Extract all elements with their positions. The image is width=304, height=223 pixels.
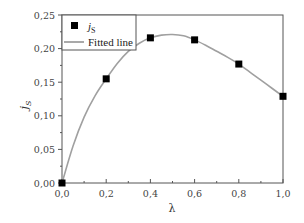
y-tick-label: 0,15 [34, 77, 55, 88]
legend: jS Fitted line [62, 15, 136, 50]
data-point-square-icon [103, 75, 110, 82]
x-tick-label: 0,6 [187, 188, 202, 199]
data-point-square-icon [235, 61, 242, 68]
y-tick-label: 0,25 [34, 10, 55, 21]
x-tick-label: 0,0 [54, 188, 69, 199]
data-point-square-icon [191, 36, 198, 43]
x-tick-label: 1,0 [275, 188, 290, 199]
chart: 0,00,20,40,60,81,0 0,000,050,100,150,200… [0, 0, 304, 223]
legend-square-marker-icon [71, 22, 78, 29]
x-tick-label: 0,2 [99, 188, 114, 199]
y-tick-label: 0,10 [34, 110, 55, 121]
legend-item-fitted-line: Fitted line [88, 36, 133, 48]
y-axis-ticks [58, 15, 62, 183]
x-tick-label: 0,8 [231, 188, 246, 199]
svg-text:jS: jS [18, 100, 33, 112]
x-axis-ticks [62, 179, 283, 183]
y-tick-label: 0,05 [34, 144, 55, 155]
y-axis-title-sub: S [24, 100, 33, 106]
x-axis-tick-labels: 0,00,20,40,60,81,0 [54, 188, 290, 199]
y-axis-tick-labels: 0,000,050,100,150,200,25 [34, 10, 55, 189]
data-point-square-icon [147, 34, 154, 41]
fitted-line [62, 34, 283, 183]
y-axis-title: jS [18, 100, 33, 112]
x-axis-title: λ [169, 202, 176, 215]
y-tick-label: 0,00 [34, 178, 55, 189]
data-point-square-icon [59, 180, 66, 187]
data-point-square-icon [280, 93, 287, 100]
x-tick-label: 0,4 [143, 188, 158, 199]
y-tick-label: 0,20 [34, 43, 55, 54]
data-markers [59, 34, 287, 186]
